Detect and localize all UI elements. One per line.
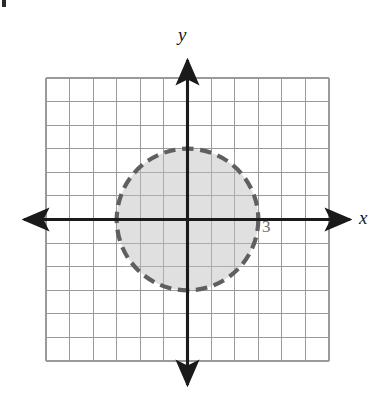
x-axis-label: x <box>359 208 367 227</box>
x-intercept-label: 3 <box>262 218 271 235</box>
axes <box>24 60 350 385</box>
y-axis-label: y <box>178 25 186 44</box>
scan-artifact-mark <box>2 0 6 7</box>
graph-figure: y x 3 <box>0 0 385 405</box>
coordinate-plane-svg <box>0 0 385 405</box>
